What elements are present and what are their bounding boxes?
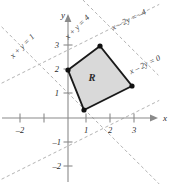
y-tick-label--1: –1 [52,137,62,147]
vertex-dot-right [129,83,134,88]
constraint-line-x-plus-y-eq-1 [2,27,160,184]
constraint-label-x-minus-2y-eq-0: x – 2y = 0 [127,53,162,76]
constraint-label-x-minus-2y-eq-neg4: x – 2y = –4 [109,8,147,33]
y-tick-label-3: 3 [54,40,59,50]
feasible-region-polygon [68,46,132,110]
y-axis-arrowhead [65,14,72,22]
figure-container: –2 1 2 3 3 2 1 –1 –2 x y R x + y = 1 x +… [0,0,176,185]
x-tick-label-3: 3 [131,125,136,135]
coordinate-plane-diagram: –2 1 2 3 3 2 1 –1 –2 x y R x + y = 1 x +… [0,0,176,185]
x-tick-label-1: 1 [84,125,88,135]
vertex-dot-top [97,43,102,48]
y-axis-label: y [60,10,65,20]
vertex-dot-top-left [65,67,70,72]
y-tick-label-2: 2 [55,64,60,74]
x-tick-label-2: 2 [108,125,113,135]
y-tick-label-1: 1 [55,88,59,98]
x-tick-labels: –2 1 2 3 [15,125,136,135]
x-axis-arrowhead [150,115,158,122]
vertex-dot-bottom [81,107,86,112]
region-label-R: R [87,72,95,83]
x-axis-label: x [162,113,167,123]
x-tick-label--2: –2 [15,125,25,135]
y-tick-labels: 3 2 1 –1 –2 [52,40,62,171]
constraint-line-x-minus-2y-eq-0 [2,100,160,179]
y-tick-label--2: –2 [52,161,62,171]
